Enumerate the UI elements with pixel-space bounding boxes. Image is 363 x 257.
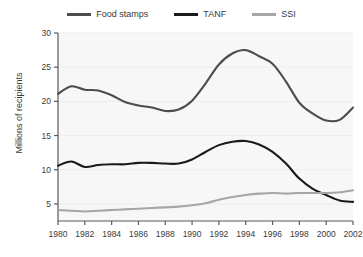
x-tick-label: 2000 [317, 229, 336, 239]
x-tick-label: 1998 [290, 229, 309, 239]
chart-container: Food stamps TANF SSI Millions of recipie… [0, 0, 363, 257]
y-tick-label: 25 [42, 62, 52, 72]
y-axis-ticks: 51015202530 [42, 28, 58, 209]
y-tick-label: 15 [42, 131, 52, 141]
x-tick-label: 1984 [102, 229, 121, 239]
x-tick-label: 1994 [236, 229, 255, 239]
x-tick-label: 1980 [49, 229, 68, 239]
x-tick-label: 1992 [209, 229, 228, 239]
x-tick-label: 1986 [129, 229, 148, 239]
y-tick-label: 30 [42, 28, 52, 38]
x-tick-label: 1982 [75, 229, 94, 239]
y-tick-label: 10 [42, 165, 52, 175]
x-tick-label: 1996 [263, 229, 282, 239]
plot-area: 51015202530 1980198219841986198819901992… [0, 0, 363, 257]
y-tick-label: 5 [46, 199, 51, 209]
y-tick-label: 20 [42, 96, 52, 106]
x-tick-label: 2002 [344, 229, 363, 239]
x-axis-ticks: 1980198219841986198819901992199419961998… [49, 221, 363, 239]
x-tick-label: 1988 [156, 229, 175, 239]
x-tick-label: 1990 [183, 229, 202, 239]
